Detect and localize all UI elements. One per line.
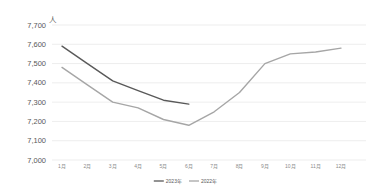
legend-item-2022: 2022年 (189, 178, 217, 185)
y-tick-label: 7,100 (27, 136, 46, 145)
x-tick-label: 3月 (109, 163, 117, 170)
x-tick-label: 7月 (210, 163, 218, 170)
x-tick-label: 11月 (311, 163, 321, 170)
y-tick-label: 7,700 (27, 21, 46, 30)
y-tick-label: 7,500 (27, 59, 46, 68)
x-axis-tick-labels: 1月2月3月4月5月6月7月8月9月10月11月12月 (58, 163, 346, 170)
x-tick-label: 4月 (134, 163, 142, 170)
y-tick-label: 7,300 (27, 98, 46, 107)
x-tick-label: 1月 (58, 163, 66, 170)
y-tick-label: 7,000 (27, 156, 46, 165)
x-tick-label: 6月 (185, 163, 193, 170)
x-tick-label: 12月 (336, 163, 347, 170)
series-line-2022 (62, 48, 341, 125)
y-tick-label: 7,600 (27, 40, 46, 49)
x-tick-label: 8月 (236, 163, 244, 170)
x-tick-label: 2月 (83, 163, 91, 170)
legend-label: 2022年 (201, 178, 217, 185)
x-tick-label: 5月 (160, 163, 168, 170)
legend-label: 2023年 (166, 178, 182, 185)
legend: 2023年2022年 (154, 178, 217, 185)
y-axis-unit-label: 人 (49, 16, 57, 25)
series-line-2023 (62, 46, 189, 104)
y-axis-tick-labels: 7,7007,6007,5007,4007,3007,2007,1007,000 (27, 21, 46, 165)
series-lines (62, 46, 341, 125)
y-tick-label: 7,400 (27, 78, 46, 87)
x-tick-label: 9月 (261, 163, 269, 170)
legend-item-2023: 2023年 (154, 178, 182, 185)
y-tick-label: 7,200 (27, 117, 46, 126)
line-chart: 7,7007,6007,5007,4007,3007,2007,1007,000… (0, 0, 371, 189)
x-tick-label: 10月 (285, 163, 296, 170)
chart-canvas: 7,7007,6007,5007,4007,3007,2007,1007,000… (0, 0, 371, 189)
